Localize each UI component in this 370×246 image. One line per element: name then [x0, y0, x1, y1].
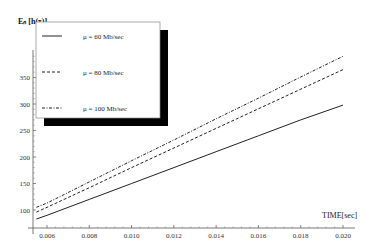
x-tick-label: 0.008 [81, 232, 97, 240]
x-tick-label: 0.012 [166, 232, 182, 240]
x-axis-title: TIME[sec] [322, 211, 357, 220]
chart: Eₙ [h(τ)] 100150200250300350 0.0060.0080… [0, 0, 370, 246]
y-tick-label: 200 [20, 154, 31, 162]
y-tick-label: 150 [20, 180, 31, 188]
svg-text:μ = 80 Mb/sec: μ = 80 Mb/sec [83, 69, 124, 77]
y-tick-label: 300 [20, 101, 31, 109]
y-tick-label: 250 [20, 127, 31, 135]
x-tick-label: 0.018 [293, 232, 309, 240]
svg-text:μ = 60 Mb/sec: μ = 60 Mb/sec [83, 33, 124, 41]
y-axis: 100150200250300350 [20, 50, 37, 234]
x-tick-label: 0.006 [39, 232, 55, 240]
y-tick-label: 100 [20, 207, 31, 215]
y-tick-label: 350 [20, 74, 31, 82]
svg-text:μ = 100 Mb/sec: μ = 100 Mb/sec [83, 105, 127, 113]
x-tick-label: 0.020 [335, 232, 351, 240]
x-tick-label: 0.014 [208, 232, 224, 240]
x-axis: 0.0060.0080.0100.0120.0140.0160.0180.020 [28, 225, 355, 240]
x-tick-label: 0.010 [124, 232, 140, 240]
legend: μ = 60 Mb/sec μ = 80 Mb/sec μ = 100 Mb/s… [36, 22, 168, 126]
x-tick-label: 0.016 [251, 232, 267, 240]
